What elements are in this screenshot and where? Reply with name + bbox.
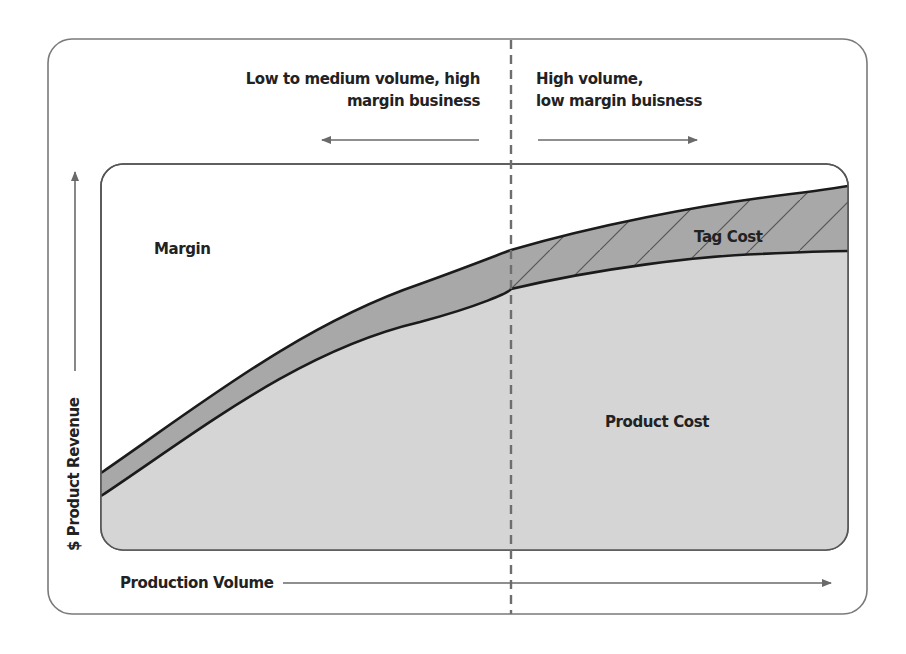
left-region-label-line2: margin business: [246, 90, 480, 112]
y-axis-label: $ Product Revenue: [63, 398, 85, 551]
left-region-label-line1: Low to medium volume, high: [246, 68, 480, 90]
right-region-label: High volume, low margin buisness: [536, 68, 702, 112]
right-region-label-line2: low margin buisness: [536, 90, 702, 112]
left-region-label: Low to medium volume, high margin busine…: [246, 68, 480, 112]
margin-label: Margin: [154, 238, 211, 260]
right-region-label-line1: High volume,: [536, 68, 702, 90]
product-cost-label: Product Cost: [605, 411, 709, 433]
x-axis-label: Production Volume: [120, 572, 273, 594]
tag-cost-label: Tag Cost: [694, 226, 763, 248]
